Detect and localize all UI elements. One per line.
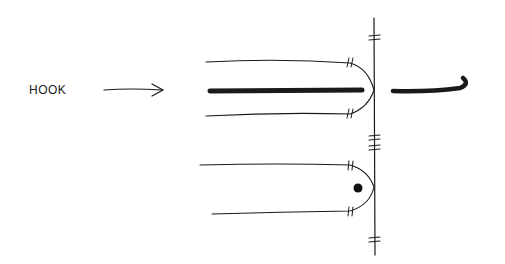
- dot-icon: [354, 184, 363, 193]
- hook-shaft: [210, 90, 362, 91]
- hook-icon: [393, 78, 466, 91]
- hook-diagram: [0, 0, 505, 264]
- lower-loop: [200, 161, 374, 216]
- vertical-line: [374, 18, 375, 255]
- arrow-icon: [104, 84, 163, 96]
